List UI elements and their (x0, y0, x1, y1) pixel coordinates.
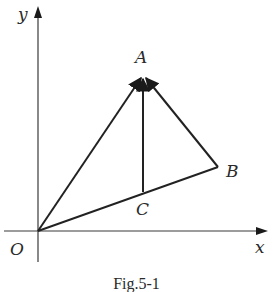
y-axis-arrow-icon (34, 6, 42, 18)
point-A-label: A (135, 49, 147, 66)
point-C-label: C (136, 201, 149, 218)
origin-label: O (10, 241, 24, 258)
x-axis-arrow-icon (256, 227, 268, 235)
segment-OB (38, 167, 218, 231)
point-B-label: B (226, 163, 239, 180)
figure-caption: Fig.5-1 (0, 276, 273, 292)
y-axis-label: y (18, 6, 28, 23)
x-axis-label: x (255, 239, 265, 256)
vector-OA (38, 78, 141, 231)
vector-BA (146, 78, 218, 167)
